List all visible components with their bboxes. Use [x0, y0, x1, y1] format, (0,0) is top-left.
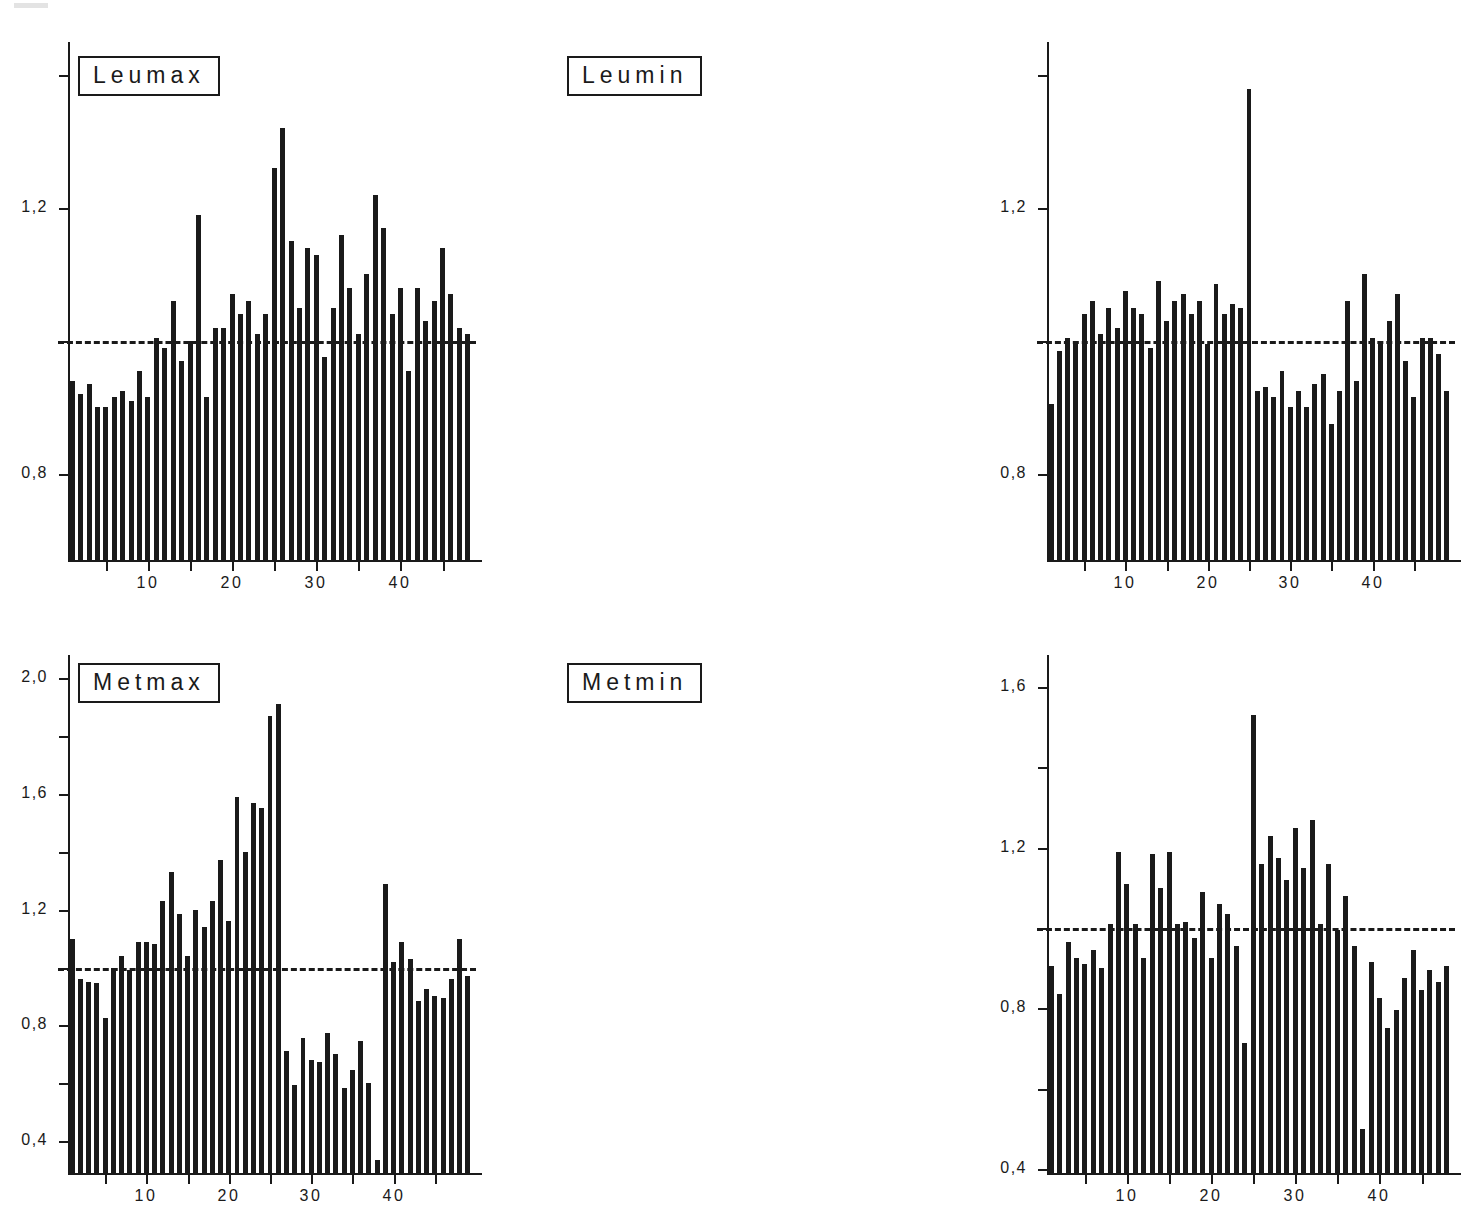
bar — [1205, 344, 1210, 560]
x-tick-label: 30 — [281, 1187, 341, 1205]
bar — [322, 357, 327, 560]
bar — [226, 921, 231, 1173]
bar — [160, 901, 165, 1173]
bar — [366, 1083, 371, 1173]
bar — [221, 328, 226, 560]
bar — [1141, 958, 1146, 1173]
bar — [1276, 858, 1281, 1173]
bar — [1164, 321, 1169, 560]
x-tick-label: 10 — [1095, 574, 1155, 592]
bar — [1310, 820, 1315, 1173]
bar — [1377, 998, 1382, 1173]
x-tick-label: 40 — [364, 1187, 424, 1205]
bar — [1428, 338, 1433, 560]
bar — [129, 401, 134, 560]
bar — [398, 288, 403, 560]
bar — [202, 927, 207, 1173]
y-tick-label: 1,6 — [969, 677, 1027, 695]
bar — [1284, 880, 1289, 1173]
bar — [1411, 397, 1416, 560]
bar — [408, 959, 413, 1173]
x-tick — [1422, 1175, 1424, 1184]
x-tick — [1208, 562, 1210, 571]
x-tick — [316, 562, 318, 571]
plot-area-leumax: 0,81,210203040 — [0, 0, 490, 613]
bar — [171, 301, 176, 560]
x-tick — [190, 562, 192, 571]
x-tick — [1167, 562, 1169, 571]
y-tick-label: 0,8 — [969, 998, 1027, 1016]
bar — [1238, 308, 1243, 560]
bar — [1329, 424, 1334, 560]
bar — [284, 1051, 289, 1173]
bar — [1065, 338, 1070, 560]
bar — [1354, 381, 1359, 560]
bar — [243, 852, 248, 1173]
x-tick — [105, 1175, 107, 1184]
bar — [103, 407, 108, 560]
x-tick — [232, 562, 234, 571]
bar — [213, 328, 218, 560]
x-tick — [311, 1175, 313, 1184]
x-tick — [400, 562, 402, 571]
x-tick — [270, 1175, 272, 1184]
bar — [1181, 294, 1186, 560]
bar — [1259, 864, 1264, 1173]
bar — [415, 288, 420, 560]
x-tick — [1414, 562, 1416, 571]
bar — [1402, 978, 1407, 1173]
bar — [297, 308, 302, 560]
bar — [449, 979, 454, 1173]
bar — [78, 394, 83, 560]
bar — [1209, 958, 1214, 1173]
bar — [301, 1038, 306, 1173]
legend-metmax: Metmax — [78, 663, 220, 703]
bar — [1131, 308, 1136, 560]
bar — [1183, 922, 1188, 1173]
bar-series — [68, 655, 472, 1173]
bar — [1115, 328, 1120, 560]
bar — [120, 391, 125, 560]
bar — [1225, 914, 1230, 1173]
y-tick-label: 0,8 — [0, 1015, 48, 1033]
bar — [399, 942, 404, 1174]
bar — [331, 308, 336, 560]
bar — [1419, 990, 1424, 1173]
x-tick — [1290, 562, 1292, 571]
x-tick — [1085, 1175, 1087, 1184]
bar — [204, 397, 209, 560]
bar — [390, 314, 395, 560]
bar — [1124, 884, 1129, 1173]
bar — [1073, 341, 1078, 560]
x-tick-label: 10 — [116, 1187, 176, 1205]
bar — [1378, 341, 1383, 560]
x-tick — [188, 1175, 190, 1184]
bar — [1293, 828, 1298, 1173]
bar — [309, 1060, 314, 1173]
bar — [1255, 391, 1260, 560]
x-tick-label: 30 — [1260, 574, 1320, 592]
bar — [1247, 89, 1252, 561]
bar — [1057, 994, 1062, 1173]
x-tick-label: 20 — [202, 574, 262, 592]
bar — [314, 255, 319, 560]
bar — [1197, 301, 1202, 560]
x-tick-label: 20 — [1178, 574, 1238, 592]
y-tick-label: 0,4 — [0, 1131, 48, 1149]
x-tick — [1337, 1175, 1339, 1184]
bar — [1099, 968, 1104, 1173]
legend-leumax: Leumax — [78, 56, 220, 96]
bar — [1049, 404, 1054, 560]
bar — [1049, 966, 1054, 1173]
x-tick — [1169, 1175, 1171, 1184]
x-tick-label: 40 — [1343, 574, 1403, 592]
bar — [342, 1088, 347, 1173]
bar — [1189, 314, 1194, 560]
bar — [423, 321, 428, 560]
bar — [465, 976, 470, 1173]
x-tick-label: 40 — [370, 574, 430, 592]
bar — [406, 371, 411, 560]
bar — [317, 1062, 322, 1173]
bar — [1082, 964, 1087, 1173]
bar — [94, 983, 99, 1173]
